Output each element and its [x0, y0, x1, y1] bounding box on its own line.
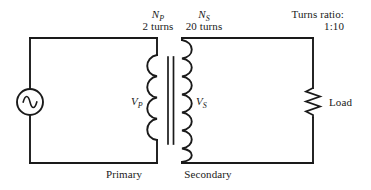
- transformer-circuit-figure: NP 2 turns NS 20 turns Turns ratio: 1:10…: [0, 0, 371, 190]
- secondary-coil: [182, 40, 192, 162]
- secondary-side-label: Secondary: [184, 168, 231, 181]
- primary-coil: [147, 55, 157, 140]
- secondary-turns-value: 20 turns: [186, 20, 223, 33]
- ac-source-sine-icon: [23, 96, 37, 107]
- primary-voltage-subscript: P: [138, 101, 143, 110]
- secondary-voltage-subscript: S: [203, 101, 207, 110]
- secondary-voltage-label: VS: [196, 95, 207, 109]
- primary-voltage-label: VP: [131, 95, 143, 109]
- turns-ratio-value: 1:10: [324, 20, 344, 33]
- load-label: Load: [329, 96, 352, 109]
- primary-side-label: Primary: [106, 168, 142, 181]
- load-resistor-zigzag: [306, 88, 320, 118]
- primary-turns-value: 2 turns: [143, 20, 174, 33]
